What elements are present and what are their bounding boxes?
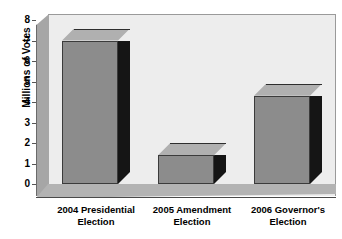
- y-axis-tick-label: 0: [14, 179, 30, 189]
- bar-top-edge: [74, 29, 130, 30]
- bar-top-edge: [170, 143, 226, 144]
- y-axis-tick-label: 6: [14, 56, 30, 66]
- plot-floor-edge: [36, 197, 336, 198]
- bar-chart: Millions of Votes 012345678 2004 Preside…: [0, 0, 342, 239]
- bar-front-face: [254, 96, 310, 184]
- bar-front-face: [62, 41, 118, 185]
- y-axis-tick-label: 7: [14, 36, 30, 46]
- x-axis-category-label: 2004 PresidentialElection: [41, 204, 151, 228]
- bar-side-face: [310, 96, 322, 184]
- bar: [254, 84, 310, 184]
- y-axis-tick-label: 8: [14, 15, 30, 25]
- x-axis-label-line: Election: [233, 216, 342, 228]
- x-axis-label-line: 2005 Amendment: [137, 204, 247, 216]
- bar-top-face: [158, 143, 226, 155]
- y-axis-tick-label: 1: [14, 159, 30, 169]
- x-axis-category-label: 2006 Governor'sElection: [233, 204, 342, 228]
- x-axis-label-line: 2006 Governor's: [233, 204, 342, 216]
- y-axis-tick-label: 2: [14, 138, 30, 148]
- y-axis-tick-label: 3: [14, 118, 30, 128]
- bar: [62, 29, 118, 185]
- plot-left-wall: [36, 14, 49, 196]
- bar-top-face: [254, 84, 322, 96]
- bar-side-face: [118, 41, 130, 185]
- x-axis-label-line: Election: [137, 216, 247, 228]
- x-axis-label-line: 2004 Presidential: [41, 204, 151, 216]
- x-axis-label-line: Election: [41, 216, 151, 228]
- bar: [158, 143, 214, 184]
- y-axis-tick-label: 4: [14, 97, 30, 107]
- x-axis-category-label: 2005 AmendmentElection: [137, 204, 247, 228]
- x-axis-labels: 2004 PresidentialElection2005 AmendmentE…: [0, 204, 342, 239]
- plot-area: [36, 14, 336, 204]
- bar-top-edge: [266, 84, 322, 85]
- y-axis-tick-label: 5: [14, 77, 30, 87]
- bar-front-face: [158, 155, 214, 184]
